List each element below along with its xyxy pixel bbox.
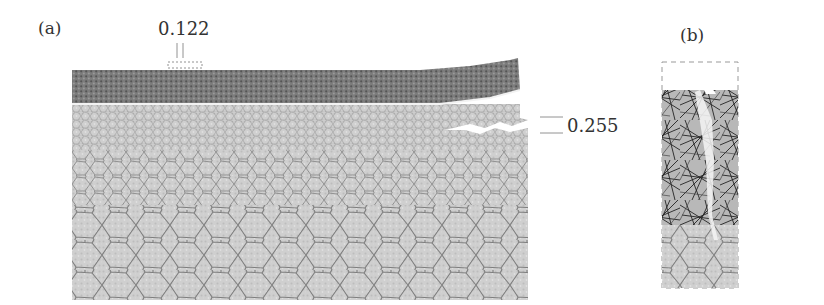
top-gap-marker [168,43,202,68]
figure-canvas [0,0,824,305]
edge-mask [520,58,528,120]
panel-b-mesh [662,62,738,288]
lower-substrate [662,225,738,288]
crack-opening-marker [540,117,563,133]
substrate-mid-zone [72,150,528,205]
panel-a-mesh [72,58,528,300]
coating-layer [72,58,520,104]
substrate-coarse-zone [72,205,528,300]
